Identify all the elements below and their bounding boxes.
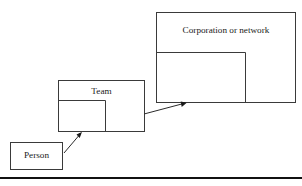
corporation-inner-partition xyxy=(157,53,246,103)
corporation-box-label: Corporation or network xyxy=(156,26,296,35)
team-box-label: Team xyxy=(58,87,145,96)
arrow-team-to-corporation xyxy=(144,102,186,114)
team-inner-partition xyxy=(59,101,106,132)
person-box-label: Person xyxy=(10,151,63,160)
bottom-rule xyxy=(0,177,302,179)
arrow-person-to-team xyxy=(64,133,81,153)
diagram-canvas: Corporation or network Team Person xyxy=(0,0,302,186)
